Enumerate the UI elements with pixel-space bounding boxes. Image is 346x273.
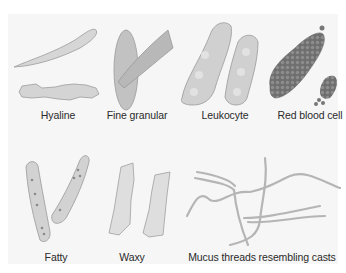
hyaline-cast-illustration bbox=[14, 29, 99, 100]
label-fatty: Fatty bbox=[45, 251, 68, 263]
label-waxy: Waxy bbox=[119, 251, 144, 263]
red-blood-cell-cast-illustration bbox=[270, 26, 337, 107]
label-leukocyte: Leukocyte bbox=[202, 109, 249, 121]
label-hyaline: Hyaline bbox=[41, 109, 75, 121]
waxy-cast-illustration bbox=[109, 163, 170, 237]
casts-illustration bbox=[0, 0, 346, 273]
mucus-threads-illustration bbox=[187, 158, 340, 245]
fine-granular-cast-illustration bbox=[114, 30, 173, 110]
leukocyte-cast-illustration bbox=[181, 23, 258, 105]
fatty-cast-illustration bbox=[26, 156, 89, 242]
label-fine-granular: Fine granular bbox=[107, 109, 168, 121]
label-mucus-threads: Mucus threads resembling casts bbox=[188, 251, 336, 263]
label-red-blood-cell: Red blood cell bbox=[277, 109, 342, 121]
